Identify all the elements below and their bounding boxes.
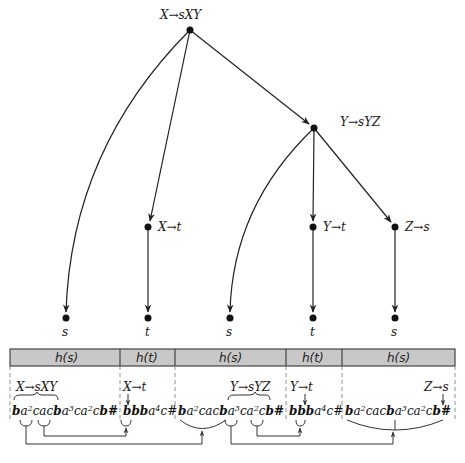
edge-root-xt xyxy=(150,30,190,221)
leaf-5-label: s xyxy=(391,325,397,339)
cup-3a xyxy=(225,420,237,426)
edge-y-leaf3 xyxy=(230,128,314,312)
tree-nodes: X→sXY Y→sYZ X→t Y→t Z→s s t s t s xyxy=(62,8,430,339)
string-seg-3: ba2cacba3ca2cb# xyxy=(178,404,284,418)
header-seg-1: h(s) xyxy=(55,351,78,365)
tree-edges xyxy=(66,30,395,312)
cup-2 xyxy=(121,420,131,426)
header-seg-4: h(t) xyxy=(302,351,324,365)
header-bar: h(s) h(t) h(s) h(t) h(s) xyxy=(10,349,455,366)
leaf-5 xyxy=(392,315,399,322)
edge-y-zs xyxy=(314,128,391,222)
annotation-y-syz: Y→sYZ xyxy=(230,380,271,394)
node-zs-label: Z→s xyxy=(404,220,430,234)
string-seg-2: bbba4c# xyxy=(123,404,177,418)
node-xt-label: X→t xyxy=(157,220,182,234)
node-yt-label: Y→t xyxy=(323,220,346,234)
leaf-4 xyxy=(310,315,317,322)
cup-3b xyxy=(251,420,263,426)
header-seg-3: h(s) xyxy=(219,351,242,365)
node-root xyxy=(187,27,194,34)
cup-1a xyxy=(20,420,32,426)
node-y xyxy=(311,125,318,132)
cup-1b xyxy=(38,420,50,426)
annotations: X→sXY X→t Y→sYZ Y→t Z→s xyxy=(14,380,449,405)
header-seg-5: h(s) xyxy=(387,351,410,365)
node-zs xyxy=(392,224,399,231)
string-seg-1: ba2cacba3ca2cb# xyxy=(12,404,118,418)
leaf-4-label: t xyxy=(310,325,315,339)
string-seg-4: bbba4c# xyxy=(289,404,343,418)
annotation-x-t: X→t xyxy=(122,380,147,394)
edge-y-yt xyxy=(313,128,314,221)
link-3a-to-5 xyxy=(231,426,393,444)
edge-root-y xyxy=(190,30,309,124)
leaf-1 xyxy=(63,315,70,322)
node-xt xyxy=(145,224,152,231)
header-seg-2: h(t) xyxy=(136,351,158,365)
annotation-z-s: Z→s xyxy=(423,380,449,394)
node-y-label: Y→sYZ xyxy=(340,115,381,129)
leaf-1-label: s xyxy=(62,325,68,339)
cup-4 xyxy=(296,420,305,426)
annotation-y-t: Y→t xyxy=(290,380,313,394)
pointer-connectors xyxy=(20,420,443,444)
leaf-3-label: s xyxy=(226,325,232,339)
encoded-strings: ba2cacba3ca2cb# bbba4c# ba2cacba3ca2cb# … xyxy=(12,404,451,418)
diagram-canvas: X→sXY Y→sYZ X→t Y→t Z→s s t s t s h(s) h… xyxy=(0,0,465,463)
node-yt xyxy=(310,224,317,231)
edge-root-leaf1 xyxy=(66,30,190,312)
leaf-2 xyxy=(145,315,152,322)
leaf-3 xyxy=(227,315,234,322)
link-1a-to-3 xyxy=(26,426,202,444)
leaf-2-label: t xyxy=(145,325,150,339)
link-3b-to-4 xyxy=(257,426,300,436)
arc-3 xyxy=(180,420,226,429)
string-seg-5: ba2cacba3ca2cb# xyxy=(345,404,451,418)
node-root-label: X→sXY xyxy=(159,8,202,22)
link-1b-to-2 xyxy=(44,426,126,436)
